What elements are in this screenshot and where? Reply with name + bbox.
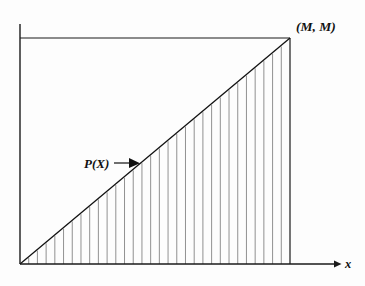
distribution-line — [20, 38, 290, 264]
triangle-distribution-chart: (M, M) P(X) x — [0, 0, 365, 286]
x-axis-arrow-icon — [334, 260, 342, 267]
curve-label: P(X) — [84, 156, 109, 171]
hatch-fill-region — [29, 46, 282, 264]
figure-container: (M, M) P(X) x — [0, 0, 365, 286]
curve-label-arrow-head-icon — [129, 158, 140, 168]
x-axis-label: x — [344, 257, 351, 271]
corner-point-label: (M, M) — [296, 19, 336, 34]
